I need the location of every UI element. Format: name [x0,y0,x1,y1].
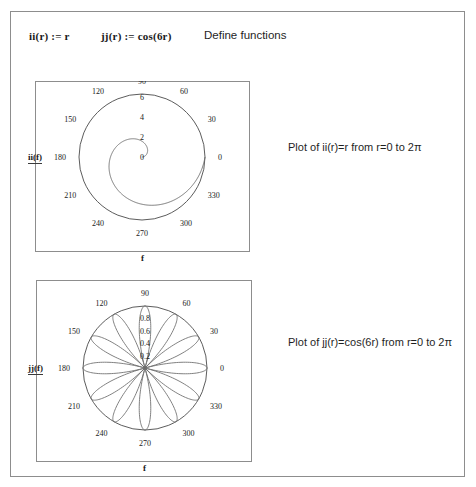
tick-label: 240 [96,429,108,438]
tick-label: 270 [136,229,148,238]
tick-label: 30 [208,115,216,124]
plot-1-xaxis-label[interactable]: f [141,253,144,263]
rose-petal [139,368,151,430]
plot-1-yaxis-label[interactable]: ii(f) [28,152,42,164]
tick-label: 30 [210,327,218,336]
tick-label: 180 [58,364,70,373]
spiral-curve [109,139,205,206]
tick-label: 180 [54,153,66,162]
polar-plot-spiral[interactable]: 0306090120150180210240270300330 0246 [35,81,250,252]
tick-label: 60 [183,299,191,308]
tick-label: 150 [64,115,76,124]
tick-label: 330 [208,191,220,200]
plot-2-yaxis-label[interactable]: jj(f) [28,363,43,375]
ii-definition[interactable]: ii(r) := r [29,30,70,42]
tick-label: 4 [140,113,144,122]
radial-tick-labels-2: 0.20.40.60.8 [140,314,150,360]
jj-definition[interactable]: jj(r) := cos(6r) [101,30,172,42]
tick-label: 2 [140,133,144,142]
polar-plot-spiral-canvas: 0306090120150180210240270300330 0246 [35,81,250,252]
tick-label: 240 [92,219,104,228]
tick-label: 90 [141,289,149,298]
rose-petal [145,362,207,374]
tick-label: 120 [96,299,108,308]
tick-label: 60 [180,87,188,96]
tick-label: 210 [68,402,80,411]
rose-curve [83,306,207,430]
tick-label: 0.2 [140,352,150,361]
definitions-row: ii(r) := r jj(r) := cos(6r) Define funct… [0,0,476,60]
tick-label: 300 [180,219,192,228]
tick-label: 0 [140,153,144,162]
tick-label: 0.6 [140,327,150,336]
polar-plot-rose-canvas: 0306090120150180210240270300330 0.20.40.… [36,280,252,462]
tick-label: 270 [139,439,151,448]
tick-label: 0.4 [140,339,150,348]
tick-label: 150 [68,327,80,336]
tick-label: 210 [64,191,76,200]
rose-petal [83,362,145,374]
plot-2-xaxis-label[interactable]: f [143,463,146,473]
tick-label: 6 [140,93,144,102]
radial-tick-labels-1: 0246 [140,93,144,162]
tick-label: 0.8 [140,314,150,323]
tick-label: 120 [92,87,104,96]
tick-label: 0 [220,364,224,373]
tick-label: 330 [210,402,222,411]
tick-label: 90 [138,81,146,86]
tick-label: 0 [218,153,222,162]
plot-2-caption: Plot of jj(r)=cos(6r) from r=0 to 2π [288,336,452,348]
plot-1-caption: Plot of ii(r)=r from r=0 to 2π [288,141,422,153]
define-functions-label: Define functions [204,29,286,41]
tick-label: 300 [183,429,195,438]
polar-plot-rose[interactable]: 0306090120150180210240270300330 0.20.40.… [36,280,252,462]
